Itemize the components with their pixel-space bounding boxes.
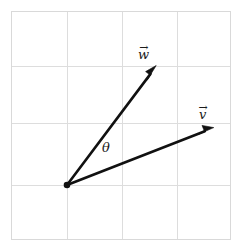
grid-lines bbox=[11, 11, 231, 240]
vector-v-arrow-accent-icon: → bbox=[198, 102, 207, 113]
vector-diagram-svg bbox=[0, 0, 242, 251]
vector-w-label: → w bbox=[138, 46, 149, 61]
vector-v-label: → v bbox=[199, 106, 206, 121]
angle-theta-label: θ bbox=[102, 141, 110, 154]
vector-v-arrowhead bbox=[199, 125, 214, 134]
vector-w-arrow-accent-icon: → bbox=[139, 42, 148, 53]
origin-point bbox=[64, 182, 71, 189]
grid-border bbox=[12, 12, 231, 240]
vector-diagram-canvas: → w → v θ bbox=[0, 0, 242, 251]
